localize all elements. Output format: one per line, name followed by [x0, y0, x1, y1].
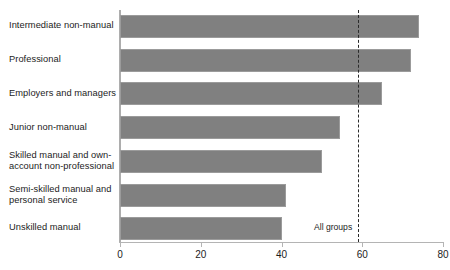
category-label-junior-non-manual: Junior non-manual — [9, 122, 117, 133]
category-label-employers-and-managers: Employers and managers — [9, 88, 117, 99]
all-groups-reference-line — [358, 10, 359, 242]
bar-junior-non-manual — [120, 116, 340, 139]
bar-professional — [120, 49, 411, 72]
x-tick-20 — [201, 242, 202, 247]
x-tick-label-20: 20 — [186, 249, 216, 260]
category-label-skilled-manual: Skilled manual and own- account non-prof… — [9, 150, 117, 173]
bar-employers-and-managers — [120, 82, 382, 105]
x-tick-0 — [120, 242, 121, 247]
x-tick-label-80: 80 — [428, 249, 450, 260]
x-tick-80 — [443, 242, 444, 247]
horizontal-bar-chart: Intermediate non-manual Professional Emp… — [0, 0, 450, 270]
x-tick-60 — [362, 242, 363, 247]
category-label-intermediate-non-manual: Intermediate non-manual — [9, 20, 117, 31]
category-label-unskilled-manual: Unskilled manual — [9, 222, 117, 233]
x-tick-40 — [282, 242, 283, 247]
category-label-professional: Professional — [9, 54, 117, 65]
x-tick-label-0: 0 — [105, 249, 135, 260]
x-tick-label-60: 60 — [347, 249, 377, 260]
all-groups-annotation-label: All groups — [272, 222, 352, 232]
x-tick-label-40: 40 — [267, 249, 297, 260]
bar-skilled-manual-and-own-account-non-profe — [120, 150, 322, 173]
category-label-semi-skilled-manual: Semi-skilled manual and personal service — [9, 184, 117, 207]
bar-semi-skilled-manual-and-personal-service — [120, 184, 286, 207]
bar-intermediate-non-manual — [120, 15, 419, 38]
bar-unskilled-manual — [120, 217, 282, 240]
